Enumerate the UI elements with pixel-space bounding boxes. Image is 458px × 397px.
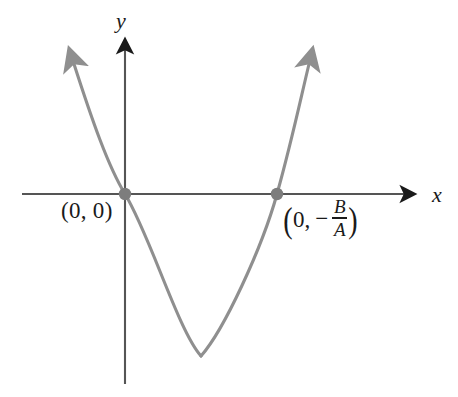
fraction-b-over-a: B A bbox=[332, 197, 347, 239]
fraction-numerator: B bbox=[333, 197, 347, 216]
origin-point-label: (0, 0) bbox=[61, 199, 113, 222]
fraction-denominator: A bbox=[333, 220, 347, 239]
root-label-inner: 0, − B A bbox=[293, 198, 348, 240]
parabola-figure: y x (0, 0) ( 0, − B A ) bbox=[0, 0, 458, 397]
origin-point bbox=[119, 188, 131, 200]
minus-sign: − bbox=[315, 207, 328, 230]
x-axis-label: x bbox=[432, 182, 442, 208]
y-axis-label: y bbox=[116, 8, 126, 34]
root-label-leading: 0, bbox=[293, 208, 310, 231]
root-point-label: ( 0, − B A ) bbox=[282, 198, 359, 240]
